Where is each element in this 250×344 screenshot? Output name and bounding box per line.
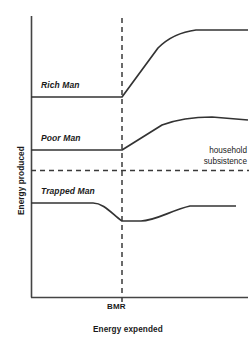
household-subsistence-line2: subsistence xyxy=(148,157,247,168)
y-axis-title: Energy produced xyxy=(17,146,26,215)
series-label-rich-man: Rich Man xyxy=(41,80,80,90)
household-subsistence-annotation: household subsistence xyxy=(148,146,247,167)
series-label-trapped-man: Trapped Man xyxy=(41,186,95,196)
chart-canvas xyxy=(0,0,250,344)
x-tick-label-bmr: BMR xyxy=(107,302,126,311)
chart-figure: Rich Man Poor Man Trapped Man household … xyxy=(0,0,250,344)
series-label-poor-man: Poor Man xyxy=(41,133,81,143)
chart-background xyxy=(0,0,250,344)
x-axis-title: Energy expended xyxy=(93,325,163,334)
household-subsistence-line1: household xyxy=(148,146,247,157)
